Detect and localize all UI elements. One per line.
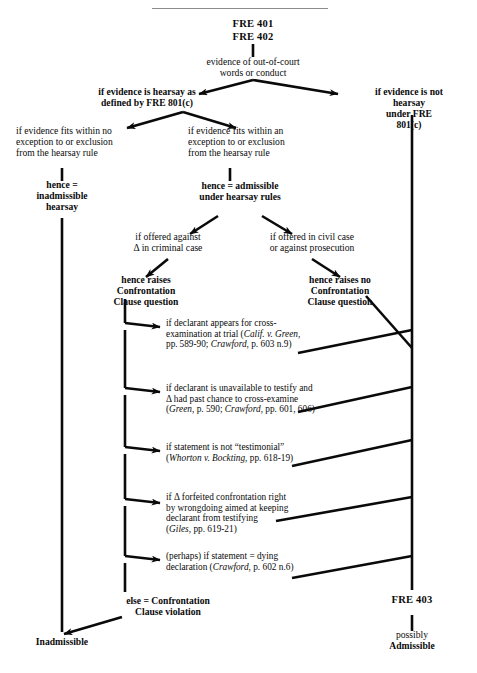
node-admissible-under-hearsay-rules: hence = admissible under hearsay rules (199, 181, 280, 203)
condition-text: , pp. 601, 606) (261, 404, 315, 414)
cond-forfeiture-by-wrongdoing: if Δ forfeited confrontation rightby wro… (166, 492, 288, 534)
condition-text: by wrongdoing aimed at keeping (166, 503, 288, 513)
case-citation: Whorton v. Bockting (169, 453, 245, 463)
node-raises-no-confrontation-clause-question: hence raises no Confrontation Clause que… (308, 275, 373, 308)
case-citation: Crawford (213, 562, 249, 572)
node-fre-403: FRE 403 (392, 594, 433, 606)
condition-line: if statement is not “testimonial” (166, 442, 293, 453)
admissible-label: Admissible (389, 641, 434, 652)
condition-text: Δ had past chance to cross-examine (166, 394, 298, 404)
node-is-hearsay: if evidence is hearsay as defined by FRE… (98, 87, 196, 109)
condition-text: if Δ forfeited confrontation right (166, 492, 286, 502)
node-raises-confrontation-clause-question: hence raises Confrontation Clause questi… (114, 275, 179, 308)
condition-text: , p. 603 n.9) (247, 339, 292, 349)
condition-line: if Δ forfeited confrontation right (166, 492, 288, 503)
condition-text: (perhaps) if statement = dying (166, 551, 278, 561)
condition-text: if declarant is unavailable to testify a… (166, 383, 313, 393)
condition-line: (Giles, pp. 619-21) (166, 524, 288, 535)
wire-cc-elbow-3 (125, 447, 160, 451)
condition-text: pp. 589-90; (166, 339, 211, 349)
condition-line: examination at trial (Calif. v. Green, (166, 329, 300, 340)
condition-line: by wrongdoing aimed at keeping (166, 503, 288, 514)
node-offered-civil-or-prosecution: if offered in civil case or against pros… (270, 232, 355, 254)
node-inadmissible-hearsay: hence = inadmissible hearsay (36, 180, 87, 213)
wire-cond-1-to-right-spine (298, 330, 412, 353)
node-offered-against-defendant: if offered against Δ in criminal case (134, 232, 203, 254)
condition-text: examination at trial ( (166, 329, 244, 339)
wire-cc-elbow-4 (125, 499, 160, 503)
node-fre-402: FRE 402 (233, 31, 274, 43)
flowchart-canvas: FRE 401 FRE 402 evidence of out-of-court… (0, 0, 477, 673)
cond-not-testimonial: if statement is not “testimonial”(Whorto… (166, 442, 293, 463)
case-citation: Green (169, 404, 192, 414)
node-an-exception: if evidence fits within an exception to … (188, 126, 285, 159)
wire-cond-2-to-right-spine (298, 387, 412, 412)
wire-cond-4-to-right-spine (276, 497, 412, 521)
wire-no-cc-to-right-spine (366, 296, 412, 348)
condition-text: , pp. 618-19) (245, 453, 293, 463)
node-not-hearsay: if evidence is not hearsay under FRE 801… (375, 87, 443, 131)
condition-text: , pp. 619-21) (189, 524, 237, 534)
condition-line: Δ had past chance to cross-examine (166, 394, 315, 405)
condition-text: , (298, 329, 300, 339)
condition-text: , p. 602 n.6) (249, 562, 294, 572)
wire-root-to-not-hearsay (253, 80, 338, 94)
condition-line: (perhaps) if statement = dying (166, 551, 293, 562)
wire-cc-elbow-2 (125, 388, 160, 392)
condition-line: (Whorton v. Bockting, pp. 618-19) (166, 453, 293, 464)
condition-text: , p. 590; (192, 404, 225, 414)
cond-cross-exam-at-trial: if declarant appears for cross-examinati… (166, 318, 300, 350)
condition-line: declaration (Crawford, p. 602 n.6) (166, 562, 293, 573)
node-evidence-root: evidence of out-of-court words or conduc… (206, 57, 299, 79)
node-no-exception: if evidence fits within no exception to … (16, 126, 113, 159)
condition-text: declarant from testifying (166, 513, 258, 523)
cond-unavailable-prior-cross: if declarant is unavailable to testify a… (166, 383, 315, 415)
condition-line: declarant from testifying (166, 513, 288, 524)
wire-cc-elbow-5 (125, 556, 160, 560)
node-possibly-admissible-outcome: possiblyAdmissible (389, 630, 434, 652)
condition-text: declaration ( (166, 562, 213, 572)
condition-line: (Green, p. 590; Crawford, pp. 601, 606) (166, 404, 315, 415)
case-citation: Giles (169, 524, 189, 534)
wire-root-to-hearsay (199, 80, 253, 94)
case-citation: Calif. v. Green (244, 329, 298, 339)
node-else-confrontation-clause-violation: else = Confrontation Clause violation (126, 596, 210, 618)
node-fre-401: FRE 401 (233, 18, 274, 30)
top-divider-rule (152, 8, 328, 9)
condition-text: if declarant appears for cross- (166, 318, 276, 328)
node-inadmissible-outcome: Inadmissible (36, 637, 88, 648)
condition-line: if declarant appears for cross- (166, 318, 300, 329)
wire-cc-elbow-1 (125, 323, 160, 327)
wire-cond-3-to-right-spine (292, 440, 412, 466)
wire-hearsay-to-no-exception (127, 112, 183, 128)
case-citation: Crawford (211, 339, 247, 349)
wire-cond-5-to-right-spine (292, 556, 412, 578)
condition-line: if declarant is unavailable to testify a… (166, 383, 315, 394)
condition-line: pp. 589-90; Crawford, p. 603 n.9) (166, 339, 300, 350)
condition-text: if statement is not “testimonial” (166, 442, 284, 452)
wire-violation-to-inadmissible (64, 617, 122, 634)
case-citation: Crawford (225, 404, 261, 414)
cond-dying-declaration: (perhaps) if statement = dyingdeclaratio… (166, 551, 293, 572)
